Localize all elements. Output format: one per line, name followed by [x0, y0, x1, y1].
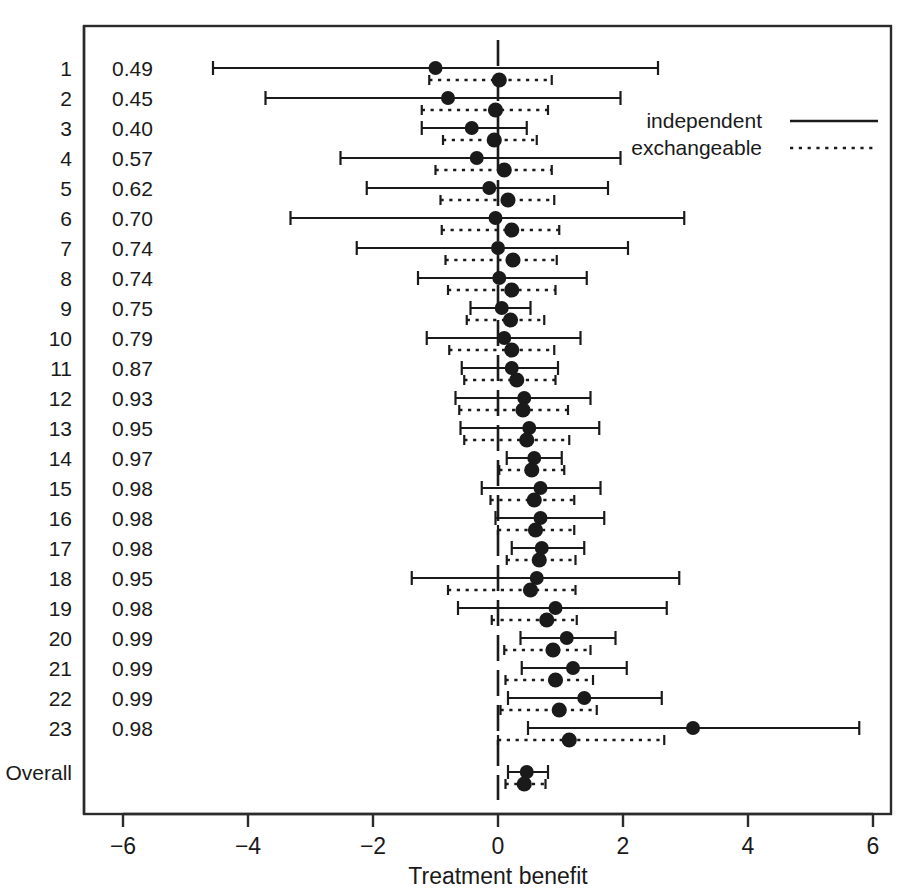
independent-point-estimate	[482, 181, 496, 195]
row-label-study: 21	[49, 657, 72, 680]
exchangeable-point-estimate	[503, 312, 518, 327]
row-label-study: 16	[49, 507, 72, 530]
row-label-probability: 0.93	[112, 387, 153, 410]
exchangeable-point-estimate	[527, 492, 542, 507]
row-label-study: 6	[60, 207, 72, 230]
exchangeable-point-estimate	[517, 776, 532, 791]
study-row	[418, 271, 587, 298]
row-label-probability: 0.40	[112, 117, 153, 140]
row-label-probability: 0.95	[112, 567, 153, 590]
row-label-probability: 0.45	[112, 87, 153, 110]
independent-point-estimate	[491, 241, 505, 255]
row-label-probability: 0.99	[112, 657, 153, 680]
row-label-probability: 0.99	[112, 627, 153, 650]
legend: independent exchangeable	[631, 109, 878, 159]
study-row	[291, 211, 685, 238]
row-label-study: 3	[60, 117, 72, 140]
row-label-study: 18	[49, 567, 72, 590]
row-label-study: 11	[50, 357, 72, 380]
study-row	[506, 661, 627, 688]
exchangeable-point-estimate	[552, 702, 567, 717]
exchangeable-point-estimate	[524, 462, 539, 477]
exchangeable-point-estimate	[492, 72, 507, 87]
exchangeable-point-estimate	[504, 282, 519, 297]
row-label-study: 13	[49, 417, 72, 440]
study-row	[462, 361, 558, 388]
independent-point-estimate	[560, 631, 574, 645]
row-label-study: 10	[49, 327, 72, 350]
row-label-probability: 0.98	[112, 597, 153, 620]
row-label-probability: 0.99	[112, 687, 153, 710]
x-axis-tick-label: 2	[617, 833, 630, 859]
exchangeable-point-estimate	[523, 582, 538, 597]
row-label-probability: 0.97	[112, 447, 153, 470]
study-row	[504, 631, 615, 658]
row-label-study: 23	[49, 717, 72, 740]
study-row	[499, 451, 564, 478]
x-axis-tick-label: −6	[110, 833, 136, 859]
row-label-study: 17	[49, 537, 72, 560]
x-axis: −6−4−20246	[110, 814, 880, 859]
study-row	[501, 691, 662, 718]
study-row	[507, 541, 585, 568]
row-label-probability: 0.98	[112, 507, 153, 530]
row-label-probability: 0.75	[112, 297, 153, 320]
exchangeable-point-estimate	[487, 132, 502, 147]
study-row	[496, 511, 605, 538]
study-row	[213, 61, 658, 88]
legend-label-independent: independent	[646, 109, 762, 132]
row-label-probability: 0.62	[112, 177, 153, 200]
study-row	[461, 421, 600, 448]
study-row	[357, 241, 628, 268]
independent-point-estimate	[492, 271, 506, 285]
row-label-probability: 0.57	[112, 147, 153, 170]
study-row	[482, 481, 601, 508]
study-row	[498, 721, 859, 748]
x-axis-tick-label: 0	[492, 833, 505, 859]
study-row	[422, 121, 537, 148]
row-label-study: 9	[60, 297, 72, 320]
exchangeable-point-estimate	[488, 102, 503, 117]
independent-point-estimate	[566, 661, 580, 675]
independent-point-estimate	[489, 211, 503, 225]
row-label-probability: 0.95	[112, 417, 153, 440]
independent-point-estimate	[441, 91, 455, 105]
exchangeable-point-estimate	[539, 612, 554, 627]
independent-point-estimate	[495, 301, 509, 315]
study-row	[412, 571, 680, 598]
forest-plot-svg: 10.4920.4530.4040.5750.6260.7070.7480.74…	[0, 0, 906, 896]
row-label-probability: 0.87	[112, 357, 153, 380]
exchangeable-point-estimate	[509, 372, 524, 387]
row-label-probability: 0.74	[112, 267, 153, 290]
row-label-probability: 0.70	[112, 207, 153, 230]
independent-point-estimate	[429, 61, 443, 75]
independent-point-estimate	[577, 691, 591, 705]
study-row	[266, 91, 621, 118]
row-label-study: 5	[60, 177, 72, 200]
row-label-study: 22	[49, 687, 72, 710]
study-row	[456, 391, 591, 418]
x-axis-title: Treatment benefit	[408, 863, 588, 889]
exchangeable-point-estimate	[505, 252, 520, 267]
row-label-probability: 0.79	[112, 327, 153, 350]
row-label-probability: 0.98	[112, 477, 153, 500]
study-row	[367, 181, 608, 208]
legend-label-exchangeable: exchangeable	[631, 136, 762, 159]
independent-point-estimate	[549, 601, 563, 615]
row-label-probability: 0.98	[112, 537, 153, 560]
exchangeable-point-estimate	[528, 522, 543, 537]
row-label-study: 15	[49, 477, 72, 500]
row-label-probability: 0.98	[112, 717, 153, 740]
row-label-probability: 0.49	[112, 57, 153, 80]
exchangeable-point-estimate	[497, 162, 512, 177]
plot-frame	[84, 26, 891, 814]
exchangeable-point-estimate	[519, 432, 534, 447]
independent-point-estimate	[465, 121, 479, 135]
row-label-study: 4	[60, 147, 72, 170]
exchangeable-point-estimate	[562, 732, 577, 747]
independent-point-estimate	[686, 721, 700, 735]
study-row	[427, 331, 581, 358]
exchangeable-point-estimate	[545, 642, 560, 657]
exchangeable-point-estimate	[500, 192, 515, 207]
row-label-study: 14	[49, 447, 73, 470]
